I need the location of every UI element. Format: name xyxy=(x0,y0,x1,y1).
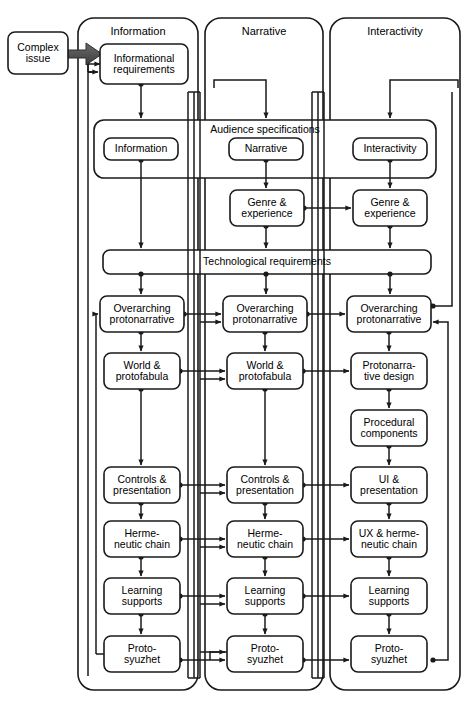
node-aud-interactivity-label: Interactivity xyxy=(353,138,427,160)
node-world-protofabula-information-label: World & protofabula xyxy=(104,353,180,389)
node-controls-presentation-information-label: Controls & presentation xyxy=(104,467,180,503)
node-learning-supports-interactivity-label: Learning supports xyxy=(351,578,427,614)
column-header-narrative: Narrative xyxy=(205,22,323,42)
node-procedural-components-label: Procedural components xyxy=(351,410,427,446)
node-proto-syuzhet-information-label: Proto- syuzhet xyxy=(104,636,180,672)
node-proto-syuzhet-narrative-label: Proto- syuzhet xyxy=(227,636,303,672)
node-aud-information-label: Information xyxy=(104,138,178,160)
node-aud-narrative-label: Narrative xyxy=(229,138,303,160)
node-complex-issue-label: Complex issue xyxy=(8,32,68,74)
node-genre-experience-narrative-label: Genre & experience xyxy=(230,190,304,226)
diagram-canvas: Information Narrative Interactivity Audi… xyxy=(0,0,467,702)
node-overarching-protonarrative-information-label: Overarching protonarrative xyxy=(100,296,184,332)
band-label-technological-requirements: Technological requirements xyxy=(103,250,431,274)
node-overarching-protonarrative-narrative-label: Overarching protonarrative xyxy=(223,296,307,332)
column-header-interactivity: Interactivity xyxy=(330,22,460,42)
node-overarching-protonarrative-interactivity-label: Overarching protonarrative xyxy=(347,296,431,332)
thick-gray-arrow xyxy=(68,43,102,65)
node-learning-supports-narrative-label: Learning supports xyxy=(227,578,303,614)
node-informational-requirements-label: Informational requirements xyxy=(100,44,188,84)
node-learning-supports-information-label: Learning supports xyxy=(104,578,180,614)
node-ux-hermeneutic-chain-label: UX & herme- neutic chain xyxy=(351,521,427,557)
node-world-protofabula-narrative-label: World & protofabula xyxy=(227,353,303,389)
column-header-information: Information xyxy=(78,22,198,42)
band-label-audience-specifications: Audience specifications xyxy=(94,121,436,139)
node-genre-experience-interactivity-label: Genre & experience xyxy=(353,190,427,226)
node-hermeneutic-chain-information-label: Herme- neutic chain xyxy=(104,521,180,557)
node-proto-syuzhet-interactivity-label: Proto- syuzhet xyxy=(351,636,427,672)
node-hermeneutic-chain-narrative-label: Herme- neutic chain xyxy=(227,521,303,557)
node-protonarrative-design-label: Protonarra- tive design xyxy=(351,353,427,389)
node-ui-presentation-label: UI & presentation xyxy=(351,467,427,503)
node-controls-presentation-narrative-label: Controls & presentation xyxy=(227,467,303,503)
